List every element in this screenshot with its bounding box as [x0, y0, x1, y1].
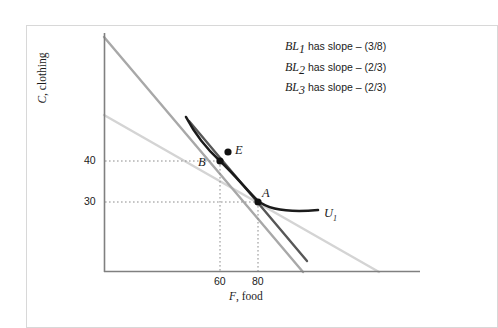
- point-a-marker: [254, 198, 261, 205]
- point-b-marker: [216, 157, 223, 164]
- curve-label-u1-name: U: [324, 206, 333, 220]
- legend-item-bl1: BL1 has slope – (3/8): [285, 38, 386, 59]
- point-e-marker: [224, 148, 231, 155]
- y-axis-title-rest: , clothing: [36, 52, 48, 95]
- x-tick-label-60: 60: [214, 275, 226, 287]
- legend-bl3-text: has slope – (2/3): [305, 81, 386, 93]
- x-axis-title-var: F: [229, 290, 236, 302]
- y-tick-label-40: 40: [84, 154, 96, 166]
- y-tick-label-30: 30: [84, 195, 96, 207]
- curve-label-u1: U1: [324, 206, 337, 223]
- legend-item-bl3: BL3 has slope – (2/3): [285, 79, 386, 100]
- legend-bl2-name: BL: [285, 60, 299, 74]
- legend-bl3-name: BL: [285, 80, 299, 94]
- point-label-b: B: [198, 155, 206, 170]
- y-axis-title: C, clothing: [36, 38, 48, 118]
- legend-bl2-text: has slope – (2/3): [305, 61, 386, 73]
- y-axis-title-var: C: [36, 96, 48, 104]
- x-tick-label-80: 80: [252, 275, 264, 287]
- slope-legend: BL1 has slope – (3/8) BL2 has slope – (2…: [285, 38, 386, 100]
- point-label-e: E: [235, 143, 243, 158]
- legend-item-bl2: BL2 has slope – (2/3): [285, 59, 386, 80]
- budget-line-1: [104, 115, 379, 272]
- legend-bl1-name: BL: [285, 39, 299, 53]
- point-label-a: A: [262, 186, 270, 201]
- legend-bl1-text: has slope – (3/8): [305, 40, 386, 52]
- x-axis-title-rest: , food: [236, 290, 263, 302]
- curve-label-u1-sub: 1: [333, 214, 337, 223]
- x-axis-title: F, food: [229, 290, 263, 302]
